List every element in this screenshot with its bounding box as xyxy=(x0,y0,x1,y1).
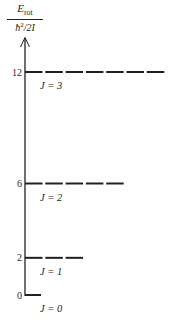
tick-label: 6 xyxy=(17,178,22,189)
level-label: J = 2 xyxy=(40,192,63,203)
level-label: J = 3 xyxy=(40,80,62,91)
energy-level-J0: 0J = 0 xyxy=(17,290,63,315)
tick-label: 2 xyxy=(17,252,22,263)
level-label: J = 1 xyxy=(40,266,62,277)
energy-level-diagram: 0J = 02J = 16J = 212J = 3 xyxy=(0,0,170,325)
energy-level-J3: 12J = 3 xyxy=(12,67,164,92)
energy-level-J2: 6J = 2 xyxy=(17,178,124,203)
energy-levels: 0J = 02J = 16J = 212J = 3 xyxy=(12,67,164,315)
tick-label: 12 xyxy=(12,67,22,78)
tick-label: 0 xyxy=(17,290,22,301)
level-label: J = 0 xyxy=(40,303,63,314)
energy-level-J1: 2J = 1 xyxy=(17,252,83,277)
